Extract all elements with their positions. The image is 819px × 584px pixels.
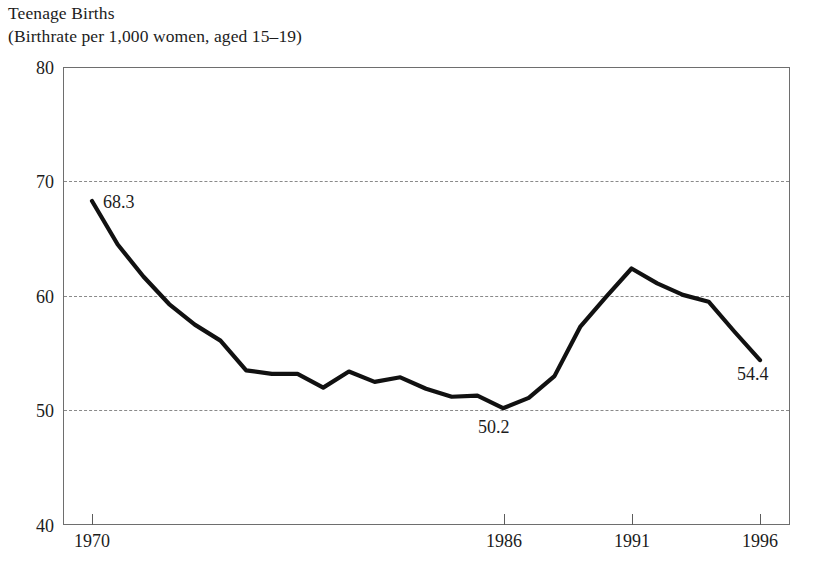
- chart-figure: Teenage Births (Birthrate per 1,000 wome…: [0, 0, 819, 584]
- x-axis-label-1986: 1986: [464, 532, 544, 550]
- x-axis-label-1970: 1970: [52, 532, 132, 550]
- data-label-end: 54.4: [737, 365, 769, 383]
- chart-subtitle: (Birthrate per 1,000 women, aged 15–19): [8, 25, 608, 48]
- data-label-start: 68.3: [103, 193, 135, 211]
- y-axis-label-80: 80: [8, 59, 54, 77]
- x-tick-mark-1991: [632, 514, 633, 525]
- x-tick-mark-1996: [760, 514, 761, 525]
- y-axis-label-70: 70: [8, 173, 54, 191]
- y-axis-label-40: 40: [8, 517, 54, 535]
- gridline-50: [64, 410, 789, 411]
- x-tick-mark-1986: [504, 514, 505, 525]
- gridline-60: [64, 296, 789, 297]
- chart-title-block: Teenage Births (Birthrate per 1,000 wome…: [8, 2, 608, 48]
- plot-area: [63, 67, 790, 525]
- x-axis-label-1991: 1991: [592, 532, 672, 550]
- gridline-70: [64, 181, 789, 182]
- page-title: Teenage Births: [8, 2, 608, 25]
- data-label-minimum: 50.2: [478, 418, 510, 436]
- y-axis-label-60: 60: [8, 288, 54, 306]
- x-tick-mark-1970: [92, 514, 93, 525]
- x-axis-label-1996: 1996: [720, 532, 800, 550]
- y-axis-label-50: 50: [8, 402, 54, 420]
